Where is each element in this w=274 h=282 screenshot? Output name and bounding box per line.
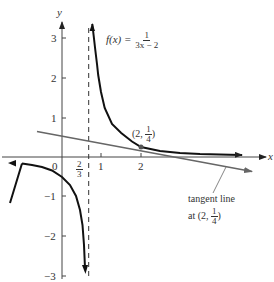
- frac-2-3-denominator: 3: [76, 170, 83, 179]
- x-ticks: [101, 153, 141, 157]
- function-curve-right-start-arrow: [90, 23, 96, 31]
- tangent-annotation-line1: tangent line: [188, 194, 235, 204]
- x-tick-label-2-3: 23: [76, 160, 83, 179]
- x-tick-label-2: 2: [138, 161, 144, 172]
- y-tick-label-2: 2: [51, 73, 57, 84]
- function-curve-left-end-arrow: [82, 265, 88, 274]
- tangent-annotation-leader: [213, 167, 226, 193]
- function-curve-left-start-arrow: [8, 160, 16, 167]
- origin-label: 0: [52, 161, 58, 172]
- tangent-point-marker: [139, 145, 144, 150]
- function-curve-left: [10, 164, 85, 269]
- function-denominator: 3x − 2: [134, 41, 159, 50]
- y-tick-label-m3: −3: [44, 271, 56, 282]
- tangent-annotation-open: (2,: [198, 210, 209, 221]
- tangent-annotation-line2: at (2, 14): [188, 207, 221, 226]
- x-axis-label: x: [268, 151, 273, 162]
- y-tick-label-m2: −2: [44, 231, 56, 242]
- y-tick-label-1: 1: [51, 113, 57, 124]
- function-lhs: f(x) =: [106, 33, 131, 45]
- y-tick-label-3: 3: [51, 33, 57, 44]
- y-tick-label-m1: −1: [44, 191, 56, 202]
- tangent-annotation-at: at: [188, 210, 195, 221]
- tangent-annotation-close: ): [218, 210, 221, 221]
- y-axis-label: y: [57, 7, 62, 18]
- point-label-close: ): [152, 128, 155, 139]
- tangent-point-label: (2, 14): [132, 125, 155, 144]
- function-label: f(x) = 13x − 2: [106, 31, 159, 50]
- point-label-open: (2,: [132, 128, 143, 139]
- x-tick-label-1: 1: [98, 161, 104, 172]
